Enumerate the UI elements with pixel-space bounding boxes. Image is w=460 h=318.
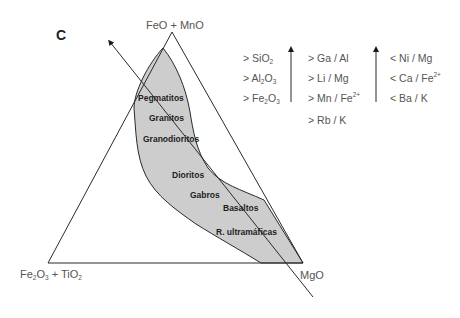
- rock-label-r-ultramaficas: R. ultramáficas: [216, 227, 277, 237]
- rock-label-basaltos: Basaltos: [223, 203, 258, 213]
- rock-label-granodioritos: Granodioritos: [143, 134, 199, 144]
- rock-label-granitos: Granitos: [149, 113, 184, 123]
- legend-ba-k: < Ba / K: [390, 92, 428, 104]
- rock-label-pegmatitos: Pegmatitos: [138, 93, 184, 103]
- vertex-label-top: FeO + MnO: [146, 19, 204, 31]
- rock-label-dioritos: Dioritos: [172, 170, 204, 180]
- legend-li-mg: > Li / Mg: [308, 72, 349, 84]
- legend-ga-al: > Ga / Al: [308, 52, 349, 64]
- differentiation-trend-arrow: [110, 42, 313, 297]
- vertex-label-right: MgO: [300, 269, 324, 281]
- panel-label: C: [56, 27, 66, 43]
- legend-ni-mg: < Ni / Mg: [390, 52, 432, 64]
- legend-mn-fe: > Mn / Fe2+: [308, 92, 360, 104]
- vertex-label-left: Fe2O3 + TiO2: [20, 268, 82, 280]
- legend-rb-k: > Rb / K: [308, 114, 346, 126]
- rock-label-gabros: Gabros: [190, 190, 220, 200]
- legend-sio2: > SiO2: [243, 52, 273, 64]
- legend-fe2o3: > Fe2O3: [243, 92, 280, 104]
- legend-ca-fe: < Ca / Fe2+: [390, 72, 441, 84]
- legend-al2o3: > Al2O3: [243, 72, 276, 84]
